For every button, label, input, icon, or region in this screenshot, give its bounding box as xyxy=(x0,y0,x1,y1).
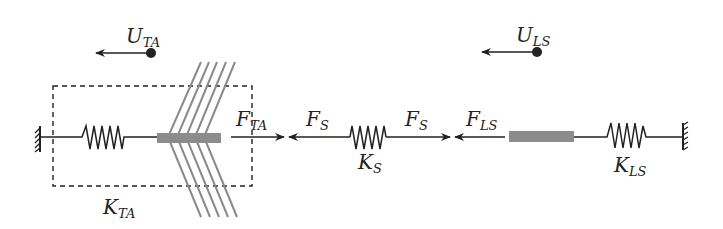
label-k-ls: KLS xyxy=(613,153,647,179)
label-f-s-right: FS xyxy=(404,107,428,133)
label-f-ls: FLS xyxy=(465,107,498,133)
left-wall-anchor-icon xyxy=(35,126,40,152)
label-f-ta: FTA xyxy=(235,107,267,133)
label-k-s: KS xyxy=(357,150,382,176)
muscle-bar-ta xyxy=(157,133,221,143)
spring-diagram: UTA ULS FTA FS FS FLS KTA KS KLS xyxy=(0,0,723,229)
spring-k-ls-icon xyxy=(574,123,682,148)
right-wall-anchor-icon xyxy=(683,122,688,150)
spring-k-s-icon xyxy=(350,126,386,149)
label-k-ta: KTA xyxy=(102,195,135,221)
label-u-ta: UTA xyxy=(126,24,160,50)
label-u-ls: ULS xyxy=(516,23,550,49)
spring-k-ta-icon xyxy=(40,126,157,149)
label-f-s-left: FS xyxy=(305,107,329,133)
muscle-bar-ls xyxy=(509,131,574,142)
